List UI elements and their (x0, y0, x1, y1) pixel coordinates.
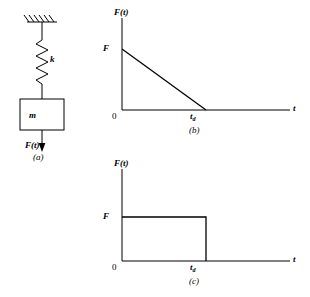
panel-rectangular-pulse-chart: F(t) F 0 td t (c) (100, 155, 310, 297)
panel-c-caption: (c) (189, 277, 199, 286)
origin-label: 0 (112, 112, 117, 121)
panel-a-caption: (a) (33, 153, 44, 162)
panel-spring-mass-system: k m F(t) (a) (0, 0, 110, 165)
y-tick-label-F: F (103, 44, 109, 53)
y-tick-label-F: F (103, 212, 109, 221)
figure-root: k m F(t) (a) F(t) F 0 td t (b) (0, 0, 310, 297)
panel-triangular-pulse-chart: F(t) F 0 td t (b) (100, 4, 310, 146)
rectangular-pulse-plot (100, 155, 310, 297)
y-axis-label: F(t) (114, 8, 129, 17)
x-tick-label-td: td (190, 112, 196, 122)
x-axis-label: t (293, 104, 296, 113)
triangular-pulse-plot (100, 4, 310, 146)
pulse-curve (122, 217, 206, 261)
spring-constant-label: k (50, 55, 55, 64)
panel-b-caption: (b) (189, 126, 200, 135)
mass-label: m (29, 111, 36, 120)
origin-label: 0 (112, 263, 117, 272)
mass-block (20, 99, 64, 130)
spring-coil (36, 40, 48, 84)
spring-mass-drawing (0, 0, 110, 165)
x-tick-label-td: td (190, 263, 196, 273)
x-axis-label: t (293, 255, 296, 264)
y-axis-label: F(t) (114, 159, 129, 168)
force-label: F(t) (25, 141, 40, 150)
pulse-curve (122, 49, 206, 110)
